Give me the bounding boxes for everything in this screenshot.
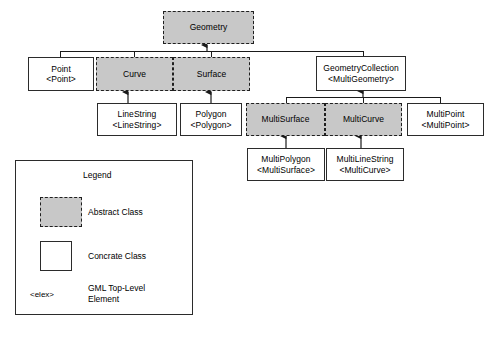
class-node-multilinestring[interactable]: MultiLineString <MultiCurve> <box>326 148 404 181</box>
class-name: LineString <box>118 109 157 119</box>
class-node-geometrycollection[interactable]: GeometryCollection <MultiGeometry> <box>316 56 406 91</box>
class-node-multipoint[interactable]: MultiPoint <MultiPoint> <box>407 103 484 136</box>
legend-elex-label: GML Top-Level Element <box>88 283 145 304</box>
class-name: Curve <box>123 69 146 79</box>
class-node-multipolygon[interactable]: MultiPolygon <MultiSurface> <box>247 148 325 181</box>
class-element: <Point> <box>46 74 76 84</box>
class-name: MultiPoint <box>427 109 465 119</box>
class-element: <MultiPoint> <box>422 120 470 130</box>
class-name: Point <box>51 64 71 74</box>
class-name: MultiCurve <box>343 114 384 124</box>
legend-concrete-label: Concrate Class <box>88 251 146 262</box>
class-element: <MultiSurface> <box>257 165 315 175</box>
class-name: GeometryCollection <box>323 63 399 73</box>
class-element: <MultiCurve> <box>339 165 390 175</box>
class-name: MultiSurface <box>262 114 310 124</box>
legend-concrete-swatch <box>40 241 72 271</box>
legend-elex-token: <elex> <box>30 290 54 299</box>
class-name: Geometry <box>190 22 228 32</box>
legend-title: Legend <box>83 170 111 180</box>
class-name: Polygon <box>195 109 226 119</box>
class-name: MultiPolygon <box>261 154 310 164</box>
class-element: <MultiGeometry> <box>328 74 394 84</box>
class-node-multicurve[interactable]: MultiCurve <box>325 103 402 136</box>
class-element: <Polygon> <box>190 120 231 130</box>
class-node-geometry[interactable]: Geometry <box>163 11 254 44</box>
class-node-curve[interactable]: Curve <box>96 57 173 91</box>
class-diagram-canvas: Geometry Point <Point> Curve Surface Geo… <box>0 0 491 340</box>
class-element: <LineString> <box>113 120 162 130</box>
legend-abstract-label: Abstract Class <box>88 207 143 218</box>
class-node-multisurface[interactable]: MultiSurface <box>246 103 325 136</box>
class-name: MultiLineString <box>337 154 394 164</box>
class-node-surface[interactable]: Surface <box>173 57 250 91</box>
class-name: Surface <box>197 69 227 79</box>
legend-abstract-swatch <box>40 197 82 227</box>
class-node-point[interactable]: Point <Point> <box>28 57 94 91</box>
class-node-polygon[interactable]: Polygon <Polygon> <box>180 103 242 136</box>
class-node-linestring[interactable]: LineString <LineString> <box>97 103 177 136</box>
